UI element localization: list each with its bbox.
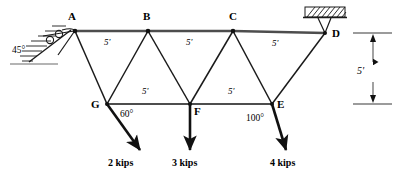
node-label-G: G (91, 99, 100, 110)
dimension-label-AB: 5' (104, 38, 110, 47)
dimension-label-vertical: 5' (357, 66, 364, 76)
truss-members (75, 31, 325, 104)
load-arrow-e-4kips (272, 104, 286, 150)
load-label-3kips: 3 kips (172, 158, 197, 168)
dimension-label-CD: 5' (272, 39, 278, 48)
joint-B (146, 29, 151, 34)
angle-label-support-a: 45° (12, 46, 25, 56)
node-label-B: B (143, 11, 150, 22)
joint-A (73, 29, 78, 34)
member-C-D (233, 31, 325, 33)
support-d-pin-triangle (318, 18, 331, 33)
dimension-label-GF: 5' (142, 87, 148, 96)
node-label-C: C (229, 11, 237, 22)
dimension-arrowhead-bottom (370, 95, 376, 103)
member-C-F (190, 31, 233, 104)
member-D-E (272, 33, 325, 104)
joint-C (231, 29, 236, 34)
support-a-bearing-plate (43, 31, 74, 36)
roller-circle (46, 36, 53, 43)
node-label-D: D (332, 28, 340, 39)
support-d-ceiling-pin (303, 7, 347, 33)
load-label-2kips: 2 kips (108, 158, 133, 168)
node-label-A: A (68, 11, 76, 22)
support-a-bracket-lower (58, 32, 74, 55)
dimension-label-FE: 5' (228, 87, 234, 96)
truss-drawing-canvas (0, 0, 400, 182)
member-A-G (75, 31, 107, 104)
dimension-arrowhead-top (370, 34, 376, 42)
node-label-F: F (194, 106, 201, 117)
dimension-label-BC: 5' (186, 38, 192, 47)
load-label-4kips: 4 kips (270, 158, 295, 168)
support-a-hatch-group (20, 26, 66, 61)
member-B-F (148, 31, 190, 104)
angle-label-load-g: 60° (120, 110, 133, 120)
angle-label-load-e: 100° (246, 114, 264, 124)
truss-joints (73, 29, 327, 106)
member-C-E (233, 31, 272, 104)
node-label-E: E (277, 99, 284, 110)
joint-D (323, 31, 327, 35)
truss-diagram: A B C D G F E 5' 5' 5' 5' 5' 5' 45° 60° … (0, 0, 400, 182)
